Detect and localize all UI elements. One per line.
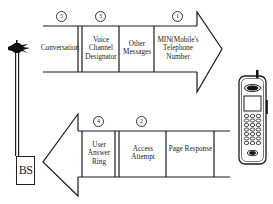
diagram-canvas bbox=[0, 0, 273, 204]
step-number-4: 4 bbox=[93, 116, 104, 127]
mobile-phone-icon bbox=[239, 70, 268, 164]
segment-conversation: Conversation bbox=[36, 44, 84, 52]
segment-voice-channel-designator: Voice Channel Designator bbox=[83, 36, 119, 61]
segment-page-response: Page Response bbox=[167, 145, 214, 153]
step-number-2: 2 bbox=[136, 116, 147, 127]
segment-min-telephone-number: MIN(Mobile's Telephone Number bbox=[155, 36, 201, 61]
step-number-5: 5 bbox=[56, 11, 67, 22]
base-station-box: BS bbox=[16, 156, 35, 185]
segment-access-attempt: Access Attempt bbox=[122, 145, 164, 162]
segment-other-messages: Other Messages bbox=[120, 40, 154, 57]
segment-user-answer-ring: User Answer Ring bbox=[83, 141, 115, 166]
antenna-tower-icon bbox=[8, 40, 30, 156]
step-number-1: 1 bbox=[172, 11, 183, 22]
step-number-3: 3 bbox=[95, 11, 106, 22]
